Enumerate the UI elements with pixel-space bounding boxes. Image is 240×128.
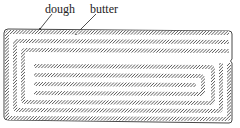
dough-diagram [0, 0, 240, 128]
butter-layer-5 [34, 84, 196, 85]
dough-leader-line [40, 14, 52, 29]
